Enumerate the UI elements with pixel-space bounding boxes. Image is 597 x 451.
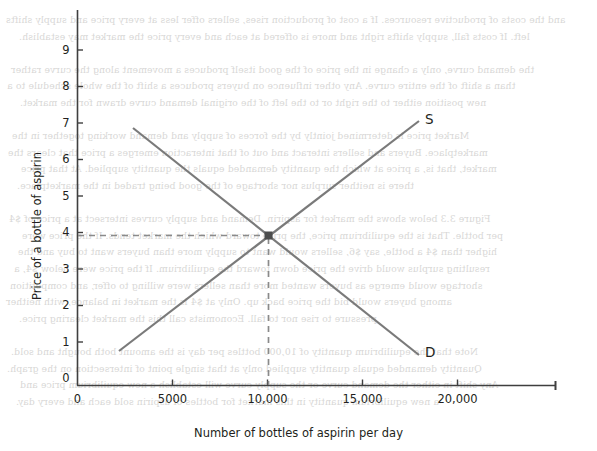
y-tick-label-7: 7 bbox=[48, 116, 70, 130]
figure-container: and the costs of productive resources. I… bbox=[0, 0, 597, 451]
x-tick-marks bbox=[173, 380, 458, 386]
y-tick-label-9: 9 bbox=[48, 43, 70, 57]
y-tick-label-2: 2 bbox=[48, 298, 70, 312]
y-tick-label-4: 4 bbox=[48, 225, 70, 239]
y-tick-label-6: 6 bbox=[48, 152, 70, 166]
supply-curve-label: S bbox=[425, 111, 434, 127]
y-tick-label-5: 5 bbox=[48, 189, 70, 203]
x-tick-label-15,000: 15,000 bbox=[323, 392, 403, 406]
x-tick-label-10,000: 10,000 bbox=[228, 392, 308, 406]
x-axis-title: Number of bottles of aspirin per day bbox=[0, 426, 597, 440]
x-tick-label-0: 0 bbox=[38, 392, 118, 406]
demand-curve bbox=[133, 128, 419, 355]
x-tick-label-5000: 5000 bbox=[133, 392, 213, 406]
y-tick-marks bbox=[78, 50, 84, 342]
y-axis-title: Price of a bottle of aspirin bbox=[30, 152, 44, 300]
supply-demand-plot bbox=[0, 0, 597, 451]
y-tick-label-3: 3 bbox=[48, 262, 70, 276]
equilibrium-point-marker bbox=[265, 232, 273, 240]
y-tick-label-1: 1 bbox=[48, 335, 70, 349]
y-tick-label-8: 8 bbox=[48, 79, 70, 93]
x-tick-label-20,000: 20,000 bbox=[418, 392, 498, 406]
demand-curve-label: D bbox=[425, 344, 435, 360]
y-tick-label-0: 0 bbox=[48, 371, 70, 385]
